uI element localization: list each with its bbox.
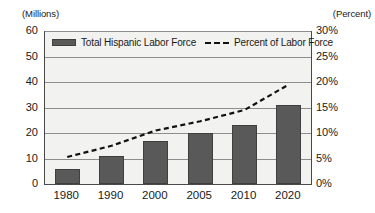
right-axis-tick-15pct: 15%	[316, 102, 360, 113]
right-axis-tick-30pct: 30%	[316, 25, 360, 36]
x-axis-tick-2010: 2010	[219, 189, 269, 201]
right-axis-tick-20pct: 20%	[316, 76, 360, 87]
right-axis-tick-0pct: 0%	[316, 178, 360, 189]
percent-dashed-polyline	[67, 85, 289, 158]
chart-figure: (Millions) (Percent) 6050403020100 30%25…	[0, 0, 375, 213]
legend-entry-total-hispanic-labor-force: Total Hispanic Labor Force	[52, 37, 196, 48]
left-axis-tick-0: 0	[0, 178, 38, 189]
legend-entry-percent-of-labor-force: Percent of Labor Force	[205, 37, 333, 48]
left-axis-tick-10: 10	[0, 153, 38, 164]
legend-label-line: Percent of Labor Force	[234, 37, 333, 48]
left-axis-caption: (Millions)	[22, 8, 59, 19]
right-axis-tick-25pct: 25%	[316, 51, 360, 62]
x-axis-tick-2000: 2000	[130, 189, 180, 201]
bar-swatch-icon	[52, 39, 76, 46]
right-axis-caption: (Percent)	[333, 8, 371, 19]
right-axis-tick-10pct: 10%	[316, 127, 360, 138]
x-axis-tick-1990: 1990	[86, 189, 136, 201]
x-axis-tick-1980: 1980	[41, 189, 91, 201]
right-axis-tick-5pct: 5%	[316, 153, 360, 164]
chart-legend: Total Hispanic Labor Force Percent of La…	[52, 37, 333, 48]
left-axis-tick-40: 40	[0, 76, 38, 87]
x-axis-tick-2020: 2020	[263, 189, 313, 201]
left-axis-tick-20: 20	[0, 127, 38, 138]
plot-area	[44, 31, 312, 185]
line-series-percent-of-labor-force	[45, 31, 311, 184]
dashed-line-swatch-icon	[205, 42, 229, 44]
left-axis-tick-60: 60	[0, 25, 38, 36]
legend-label-bar: Total Hispanic Labor Force	[81, 37, 196, 48]
left-axis-tick-50: 50	[0, 51, 38, 62]
x-axis-tick-2005: 2005	[174, 189, 224, 201]
left-axis-tick-30: 30	[0, 102, 38, 113]
